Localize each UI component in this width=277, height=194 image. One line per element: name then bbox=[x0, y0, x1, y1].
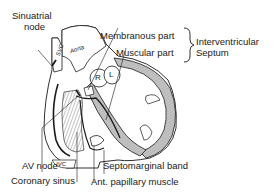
label-interventricular: Interventricular bbox=[196, 36, 259, 47]
label-ant-papillary-muscle: Ant. papillary muscle bbox=[91, 176, 179, 187]
label-membranous-part: Membranous part bbox=[100, 30, 174, 41]
label-septomarginal-band: Septomarginal band bbox=[103, 160, 188, 171]
label-septum: Septum bbox=[196, 47, 229, 58]
label-av-node: AV node bbox=[22, 160, 58, 171]
label-sinuatrial-node-1: Sinuatrial bbox=[12, 10, 52, 21]
leader-sinuatrial bbox=[38, 50, 52, 66]
heart-conduction-diagram: SVC Aorta IVC R L Sinuatrial node Membra… bbox=[0, 0, 277, 194]
label-sinuatrial-node-2: node bbox=[24, 21, 45, 32]
label-coronary-sinus: Coronary sinus bbox=[11, 175, 75, 186]
left-cusp-label: L bbox=[109, 69, 113, 80]
label-muscular-part: Muscular part bbox=[116, 47, 174, 58]
right-ventricle-hatched bbox=[62, 90, 84, 152]
right-cusp-label: R bbox=[95, 72, 101, 83]
septum-brace bbox=[184, 28, 194, 62]
